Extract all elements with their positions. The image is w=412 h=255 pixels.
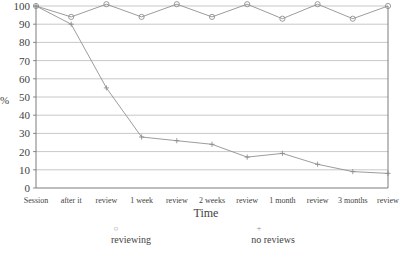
chart-legend: ○reviewing+no reviews xyxy=(0,222,412,255)
x-tick-label: review xyxy=(307,196,329,205)
data-point-marker xyxy=(174,138,179,143)
data-point-marker xyxy=(315,162,320,167)
x-axis-title: Time xyxy=(0,206,412,221)
x-tick-label: review xyxy=(236,196,258,205)
circle-marker-icon: ○ xyxy=(113,225,118,233)
data-point-marker xyxy=(245,155,250,160)
line-chart: % 0102030405060708090100 Sessionafter it… xyxy=(0,0,412,255)
legend-item-no-reviews: +no reviews xyxy=(251,234,295,245)
x-tick-label: Session xyxy=(24,196,48,205)
data-point-marker xyxy=(385,171,390,176)
series-line-reviewing xyxy=(36,4,388,19)
x-tick-label: 3 months xyxy=(338,196,368,205)
plus-marker-icon: + xyxy=(257,225,262,233)
legend-label: reviewing xyxy=(111,234,151,245)
data-point-marker xyxy=(209,142,214,147)
x-tick-label: 2 weeks xyxy=(199,196,225,205)
plot-area xyxy=(0,0,412,200)
x-tick-label: 1 month xyxy=(269,196,295,205)
x-tick-label: 1 week xyxy=(130,196,153,205)
legend-label: no reviews xyxy=(251,234,295,245)
series-line-no-reviews xyxy=(36,6,388,173)
data-point-marker xyxy=(69,22,74,27)
x-tick-label: review xyxy=(96,196,118,205)
x-tick-label: review xyxy=(166,196,188,205)
x-tick-label: review xyxy=(377,196,399,205)
legend-item-reviewing: ○reviewing xyxy=(111,234,151,245)
x-tick-label: after it xyxy=(61,196,82,205)
